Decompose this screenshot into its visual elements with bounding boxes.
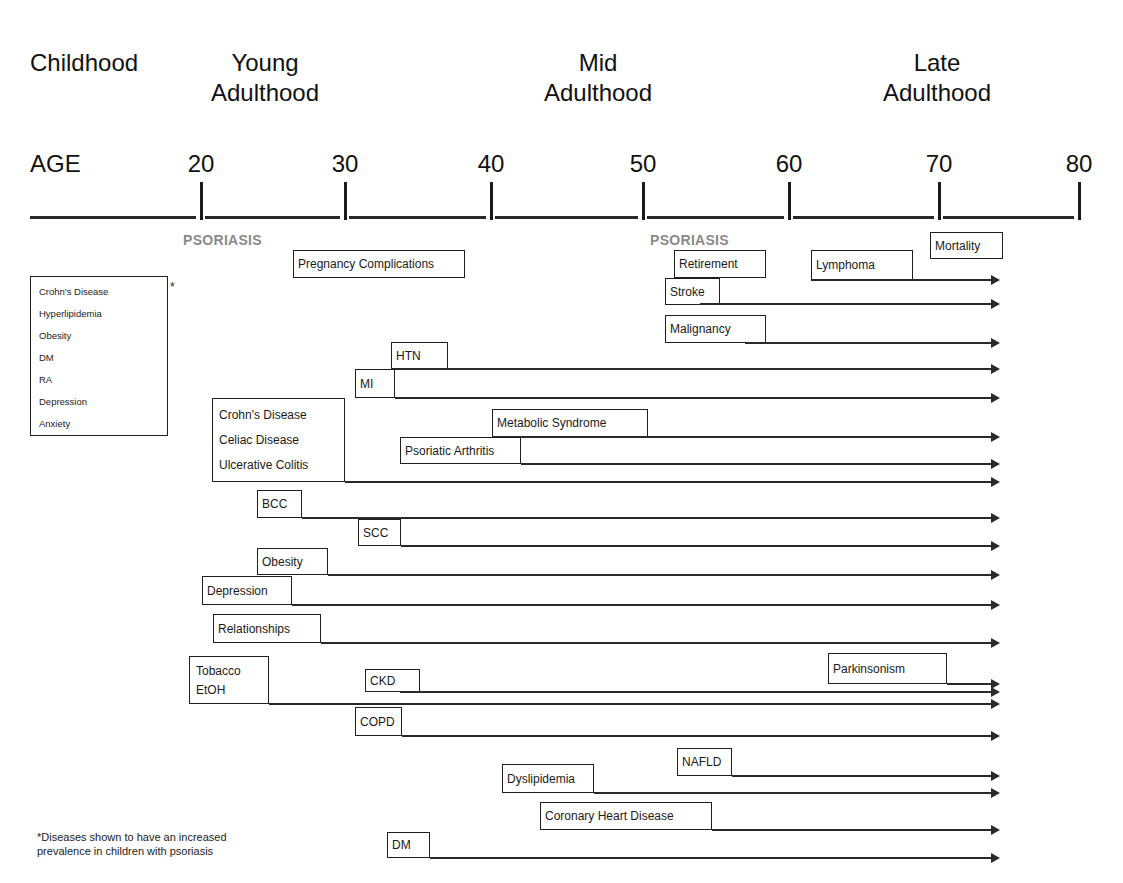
event-group-ibd-group: Crohn's DiseaseCeliac DiseaseUlcerative …: [212, 398, 345, 482]
tick-mark: [200, 182, 203, 220]
legend-item: RA: [39, 369, 159, 391]
tick-mark: [938, 182, 941, 220]
timeline-arrow: [391, 368, 992, 370]
event-label: NAFLD: [682, 755, 721, 769]
axis-segment: [647, 216, 784, 219]
event-label: Relationships: [218, 622, 290, 636]
event-label: Retirement: [679, 257, 738, 271]
event-box-bcc: BCC: [257, 490, 302, 518]
tick-label-80: 80: [1066, 150, 1093, 178]
event-label: Crohn's Disease: [219, 408, 307, 422]
event-label: MI: [360, 377, 373, 391]
timeline-arrow: [328, 574, 992, 576]
timeline-arrow: [345, 481, 992, 483]
event-box-obesity: Obesity: [257, 548, 328, 575]
asterisk-marker: *: [170, 280, 175, 294]
axis-segment: [205, 216, 340, 219]
tick-mark: [642, 182, 645, 220]
event-box-mi: MI: [355, 369, 395, 398]
timeline-arrow: [302, 517, 992, 519]
legend-item: Anxiety: [39, 413, 159, 435]
event-box-stroke: Stroke: [665, 278, 720, 305]
event-box-copd: COPD: [355, 707, 402, 736]
event-box-mortality: Mortality: [930, 232, 1003, 259]
event-box-malignancy: Malignancy: [665, 315, 766, 343]
tick-mark: [788, 182, 791, 220]
event-box-relationships: Relationships: [213, 614, 321, 643]
axis-segment: [349, 216, 486, 219]
stage-late-adulthood: Late Adulthood: [867, 48, 1007, 108]
event-box-pregnancy-complications: Pregnancy Complications: [293, 250, 465, 278]
event-box-retirement: Retirement: [674, 250, 766, 278]
timeline-arrow: [521, 463, 992, 465]
tick-label-40: 40: [478, 150, 505, 178]
event-label: Celiac Disease: [219, 433, 299, 447]
stage-childhood: Childhood: [30, 48, 138, 78]
tick-label-20: 20: [188, 150, 215, 178]
event-label: DM: [392, 838, 411, 852]
event-label: EtOH: [196, 683, 225, 697]
tick-label-60: 60: [776, 150, 803, 178]
timeline-arrow: [700, 303, 992, 305]
event-label: Psoriatic Arthritis: [405, 444, 494, 458]
timeline-arrow: [492, 436, 992, 438]
stage-mid-adulthood: Mid Adulthood: [528, 48, 668, 108]
axis-segment: [30, 216, 196, 219]
legend-item: Depression: [39, 391, 159, 413]
event-label: Pregnancy Complications: [298, 257, 434, 271]
event-label: Lymphoma: [816, 258, 875, 272]
stage-young-adulthood: Young Adulthood: [195, 48, 335, 108]
legend-item: DM: [39, 347, 159, 369]
tick-label-30: 30: [332, 150, 359, 178]
timeline-arrow: [811, 279, 992, 281]
timeline-arrow: [321, 642, 992, 644]
tick-label-70: 70: [926, 150, 953, 178]
timeline-arrow: [732, 775, 992, 777]
event-label: Malignancy: [670, 322, 731, 336]
event-box-ckd: CKD: [365, 669, 420, 692]
event-label: SCC: [363, 526, 388, 540]
event-label: Stroke: [670, 285, 705, 299]
legend-item: Hyperlipidemia: [39, 303, 159, 325]
timeline-arrow: [292, 604, 992, 606]
timeline-arrow: [269, 703, 992, 705]
legend-item: Crohn's Disease: [39, 281, 159, 303]
timeline-arrow: [402, 735, 992, 737]
legend-item: Obesity: [39, 325, 159, 347]
timeline-arrow: [594, 792, 992, 794]
event-label: HTN: [396, 349, 421, 363]
event-label: Depression: [207, 584, 268, 598]
event-label: Coronary Heart Disease: [545, 809, 674, 823]
event-box-lymphoma: Lymphoma: [811, 250, 913, 280]
timeline-arrow: [401, 545, 992, 547]
event-box-coronary-heart-disease: Coronary Heart Disease: [540, 802, 712, 830]
event-label: CKD: [370, 674, 395, 688]
axis-label-age: AGE: [30, 150, 81, 178]
event-label: Obesity: [262, 555, 303, 569]
event-label: Dyslipidemia: [507, 772, 575, 786]
tick-label-50: 50: [630, 150, 657, 178]
timeline-arrow: [395, 397, 992, 399]
timeline-arrow: [712, 829, 992, 831]
event-label: Metabolic Syndrome: [497, 416, 606, 430]
event-label: Tobacco: [196, 664, 241, 678]
timeline-arrow: [430, 857, 992, 859]
event-label: Parkinsonism: [833, 662, 905, 676]
event-box-dm: DM: [387, 832, 430, 858]
footnote: *Diseases shown to have an increased pre…: [37, 830, 227, 858]
tick-mark: [344, 182, 347, 220]
event-box-htn: HTN: [391, 342, 448, 369]
event-label: BCC: [262, 497, 287, 511]
childhood-comorbidity-list: Crohn's Disease Hyperlipidemia Obesity D…: [30, 276, 168, 436]
timeline-arrow: [400, 691, 992, 693]
event-label: COPD: [360, 715, 395, 729]
tick-mark: [1078, 182, 1081, 220]
event-box-psoriatic-arthritis: Psoriatic Arthritis: [400, 437, 521, 464]
axis-segment: [793, 216, 934, 219]
axis-segment: [943, 216, 1074, 219]
event-box-nafld: NAFLD: [677, 748, 732, 776]
timeline-arrow: [745, 342, 992, 344]
event-box-scc: SCC: [358, 519, 401, 546]
event-label: Mortality: [935, 239, 980, 253]
event-box-metabolic-syndrome: Metabolic Syndrome: [492, 409, 648, 437]
